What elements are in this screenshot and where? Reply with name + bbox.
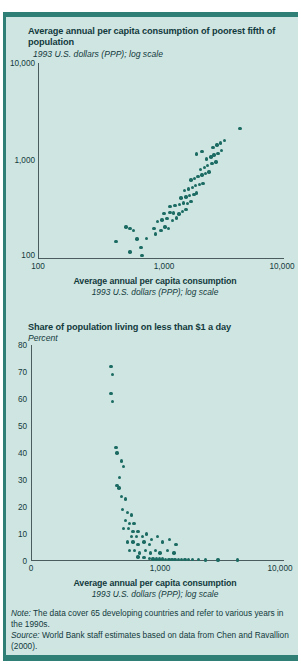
- data-point: [132, 229, 135, 232]
- data-point: [179, 196, 182, 199]
- data-point: [161, 540, 164, 543]
- data-point: [172, 551, 175, 554]
- data-point: [168, 205, 171, 208]
- data-point: [152, 227, 155, 230]
- data-point: [205, 157, 208, 160]
- chart1-ytick-10000: 10,000: [2, 59, 35, 68]
- chart2-xtick-1000: 1,000: [142, 564, 178, 573]
- data-point: [114, 446, 117, 449]
- data-point: [168, 538, 171, 541]
- data-point: [195, 191, 198, 194]
- data-point: [167, 227, 170, 230]
- chart2-subtitle: Percent: [28, 333, 278, 343]
- data-point: [135, 535, 138, 538]
- chart1-x-axis: [38, 258, 284, 259]
- data-point: [130, 513, 133, 516]
- chart2-ytick-10: 10: [2, 530, 27, 539]
- data-point: [219, 141, 222, 144]
- data-point: [142, 540, 145, 543]
- chart1-xlabel: Average annual per capita consumption: [20, 276, 290, 286]
- data-point: [236, 558, 239, 561]
- data-point: [216, 152, 219, 155]
- figure-root: Average annual per capita consumption of…: [0, 0, 301, 667]
- data-point: [183, 189, 186, 192]
- source-text: World Bank staff estimates based on data…: [11, 630, 289, 651]
- data-point: [115, 451, 118, 454]
- data-point: [145, 237, 148, 240]
- data-point: [128, 250, 131, 253]
- data-point: [122, 527, 125, 530]
- data-point: [172, 211, 175, 214]
- chart2-ytick-40: 40: [2, 449, 27, 458]
- chart2-ytick-60: 60: [2, 395, 27, 404]
- data-point: [114, 240, 117, 243]
- data-point: [196, 175, 199, 178]
- data-point: [128, 227, 131, 230]
- data-point: [121, 508, 124, 511]
- source-label: Source:: [11, 630, 40, 640]
- data-point: [160, 218, 163, 221]
- chart2-xtick-10000: 10,000: [260, 564, 300, 573]
- data-point: [150, 538, 153, 541]
- data-point: [184, 208, 187, 211]
- data-point: [131, 530, 134, 533]
- chart2-ytick-80: 80: [2, 341, 27, 350]
- chart1-y-axis: [38, 63, 39, 259]
- data-point: [220, 149, 223, 152]
- data-point: [144, 549, 147, 552]
- note-line: Note: The data cover 65 developing count…: [11, 608, 291, 630]
- data-point: [136, 530, 139, 533]
- data-point: [154, 232, 157, 235]
- data-point: [187, 187, 190, 190]
- data-point: [174, 543, 177, 546]
- data-point: [200, 150, 203, 153]
- data-point: [109, 392, 112, 395]
- data-point: [166, 549, 169, 552]
- data-point: [165, 217, 168, 220]
- data-point: [131, 540, 134, 543]
- data-point: [128, 549, 131, 552]
- data-point: [189, 200, 192, 203]
- chart1-xtick-100: 100: [24, 262, 52, 271]
- data-point: [171, 219, 174, 222]
- bottom-rule: [3, 655, 298, 661]
- chart2-ytick-30: 30: [2, 476, 27, 485]
- chart2-plot-area: [31, 345, 284, 561]
- data-point: [178, 203, 181, 206]
- data-point: [138, 551, 141, 554]
- data-point: [109, 365, 112, 368]
- data-point: [141, 535, 144, 538]
- chart2-xtick-0: 0: [18, 564, 44, 573]
- data-point: [162, 212, 165, 215]
- data-point: [126, 540, 129, 543]
- data-point: [120, 495, 123, 498]
- data-point: [136, 543, 139, 546]
- data-point: [154, 549, 157, 552]
- data-point: [238, 127, 241, 130]
- data-point: [130, 535, 133, 538]
- chart1-subtitle: 1993 U.S. dollars (PPP); log scale: [33, 49, 283, 59]
- data-point: [207, 170, 210, 173]
- chart2-y-axis: [31, 345, 32, 561]
- data-point: [182, 201, 185, 204]
- data-point: [195, 152, 198, 155]
- chart2-ytick-50: 50: [2, 422, 27, 431]
- data-point: [210, 162, 213, 165]
- data-point: [214, 160, 217, 163]
- chart1-ytick-100: 100: [2, 251, 35, 260]
- chart1-xtick-10000: 10,000: [262, 262, 301, 271]
- data-point: [140, 254, 143, 257]
- chart1-xsublabel: 1993 U.S. dollars (PPP); log scale: [20, 287, 290, 297]
- data-point: [111, 400, 114, 403]
- data-point: [145, 532, 148, 535]
- cropped-page-heading: [0, 0, 301, 6]
- data-point: [148, 543, 151, 546]
- data-point: [216, 558, 219, 561]
- data-point: [139, 246, 142, 249]
- data-point: [201, 182, 204, 185]
- data-point: [142, 556, 145, 559]
- chart2-ytick-70: 70: [2, 368, 27, 377]
- data-point: [117, 486, 120, 489]
- data-point: [194, 184, 197, 187]
- data-point: [206, 164, 209, 167]
